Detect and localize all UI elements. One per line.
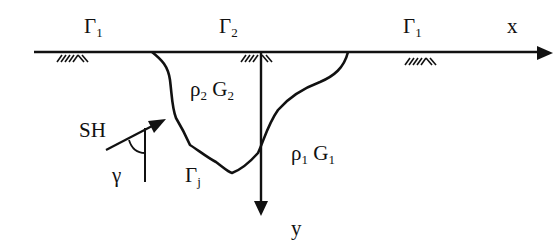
boundary-label-gammaj: Γj	[185, 165, 201, 188]
boundary-subscript: j	[197, 174, 201, 189]
ground-hatch-left-icon	[57, 55, 88, 62]
boundary-symbol: Γ	[219, 14, 231, 38]
incidence-angle-label: γ	[112, 165, 121, 186]
boundary-symbol: Γ	[84, 14, 96, 38]
boundary-label-gamma2: Γ2	[219, 16, 238, 39]
x-axis	[34, 46, 553, 60]
boundary-subscript: 1	[415, 25, 422, 40]
incident-wave-label: SH	[79, 120, 106, 141]
boundary-symbol: Γ	[185, 163, 197, 187]
boundary-symbol: Γ	[403, 14, 415, 38]
density-subscript: 2	[200, 88, 207, 103]
boundary-subscript: 1	[96, 25, 103, 40]
modulus-subscript: 1	[328, 152, 335, 167]
incident-wave-arrow	[106, 119, 166, 150]
modulus-subscript: 2	[227, 88, 234, 103]
density-symbol: ρ	[190, 77, 200, 101]
density-subscript: 1	[301, 152, 308, 167]
ground-hatch-center-icon	[241, 55, 272, 62]
boundary-label-gamma1-left: Γ1	[84, 16, 103, 39]
x-axis-label: x	[507, 16, 518, 37]
y-axis-label: y	[291, 218, 302, 239]
modulus-symbol: G	[212, 77, 227, 101]
valley-material-label: ρ2 G2	[190, 79, 234, 102]
halfspace-material-label: ρ1 G1	[291, 143, 335, 166]
density-symbol: ρ	[291, 141, 301, 165]
y-axis-arrowhead-icon	[254, 201, 268, 216]
x-axis-arrowhead-icon	[537, 46, 553, 60]
wave-arrowhead-icon	[148, 119, 166, 133]
boundary-label-gamma1-right: Γ1	[403, 16, 422, 39]
modulus-symbol: G	[313, 141, 328, 165]
diagram-canvas: Γ1 Γ2 Γ1 Γj x y ρ2 G2 ρ1 G1 SH γ	[0, 0, 553, 252]
ground-hatch-right-icon	[405, 58, 436, 65]
boundary-subscript: 2	[231, 25, 238, 40]
